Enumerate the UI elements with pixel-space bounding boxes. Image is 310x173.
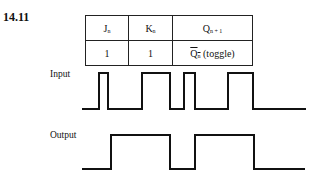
waveform-diagram — [0, 0, 310, 173]
output-waveform — [82, 135, 305, 169]
input-waveform — [82, 73, 306, 109]
